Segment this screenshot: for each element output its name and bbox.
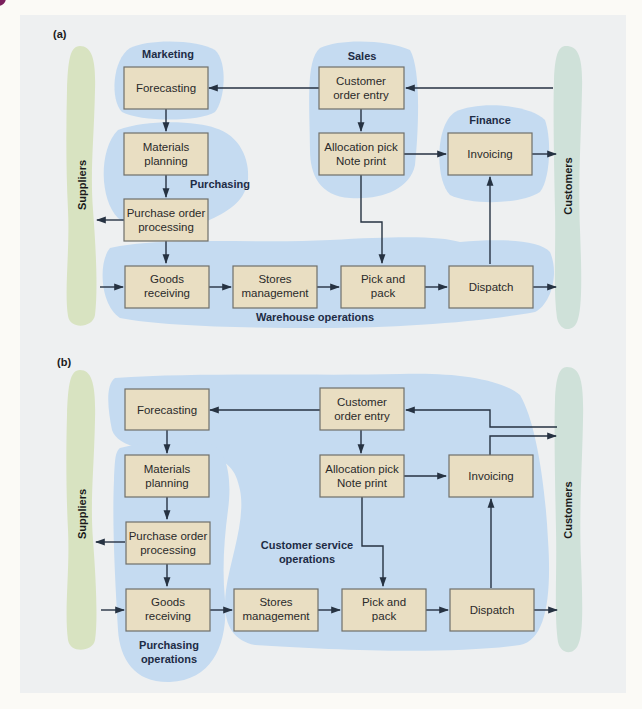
svg-text:Materials: Materials xyxy=(144,463,191,475)
svg-text:management: management xyxy=(242,610,310,622)
box-materials-planning-b: Materials planning xyxy=(125,455,209,497)
svg-text:Materials: Materials xyxy=(143,141,190,153)
svg-text:Pick and: Pick and xyxy=(362,596,406,608)
box-dispatch: Dispatch xyxy=(449,266,533,308)
suppliers-label-b: Suppliers xyxy=(76,489,88,539)
box-forecasting-b: Forecasting xyxy=(125,389,209,430)
box-goods-receiving: Goods receiving xyxy=(125,266,209,308)
box-materials-planning: Materials planning xyxy=(124,133,208,175)
svg-text:order entry: order entry xyxy=(334,410,390,422)
diagram-a: (a) Suppliers Customers Marketing Sales … xyxy=(53,28,582,329)
panel-label-a: (a) xyxy=(53,28,67,40)
svg-text:Invoicing: Invoicing xyxy=(468,470,513,482)
svg-text:Pick and: Pick and xyxy=(361,273,405,285)
box-customer-order-entry-b: Customer order entry xyxy=(320,388,404,430)
svg-text:Goods: Goods xyxy=(151,596,185,608)
customer-service-label-line1: Customer service xyxy=(261,539,353,551)
svg-text:processing: processing xyxy=(140,544,196,556)
box-pick-and-pack: Pick and pack xyxy=(341,266,425,308)
svg-text:Stores: Stores xyxy=(258,273,291,285)
panel-label-b: (b) xyxy=(57,356,71,368)
box-stores-management: Stores management xyxy=(233,266,317,308)
finance-label: Finance xyxy=(469,114,511,126)
sales-label: Sales xyxy=(348,50,377,62)
customers-label-b: Customers xyxy=(562,481,574,538)
svg-text:Stores: Stores xyxy=(259,596,292,608)
svg-text:Goods: Goods xyxy=(150,273,184,285)
purchasing-operations-label-line2: operations xyxy=(141,653,197,665)
svg-text:Allocation pick: Allocation pick xyxy=(325,463,399,475)
svg-text:Invoicing: Invoicing xyxy=(467,148,512,160)
svg-text:Allocation pick: Allocation pick xyxy=(324,141,398,153)
svg-text:Purchase order: Purchase order xyxy=(127,207,206,219)
svg-text:planning: planning xyxy=(144,155,187,167)
box-forecasting: Forecasting xyxy=(124,67,208,109)
suppliers-label-a: Suppliers xyxy=(76,160,88,210)
svg-text:Purchase order: Purchase order xyxy=(129,530,208,542)
svg-text:order entry: order entry xyxy=(333,89,389,101)
box-goods-receiving-b: Goods receiving xyxy=(126,589,210,631)
box-allocation-pick-b: Allocation pick Note print xyxy=(320,455,404,497)
box-customer-order-entry: Customer order entry xyxy=(319,67,404,109)
box-stores-management-b: Stores management xyxy=(234,589,318,631)
svg-text:receiving: receiving xyxy=(145,610,191,622)
purchasing-operations-label-line1: Purchasing xyxy=(139,639,199,651)
svg-text:Forecasting: Forecasting xyxy=(136,82,196,94)
warehouse-label: Warehouse operations xyxy=(256,311,374,323)
svg-text:pack: pack xyxy=(372,610,397,622)
svg-text:Dispatch: Dispatch xyxy=(470,604,515,616)
diagram-b: (b) Suppliers Customers Customer service… xyxy=(57,356,583,682)
svg-text:Customer: Customer xyxy=(337,396,387,408)
svg-text:Dispatch: Dispatch xyxy=(469,281,514,293)
svg-text:Note print: Note print xyxy=(336,155,387,167)
box-purchase-order: Purchase order processing xyxy=(124,199,208,241)
customer-service-label-line2: operations xyxy=(279,553,335,565)
svg-text:processing: processing xyxy=(138,221,194,233)
svg-text:pack: pack xyxy=(371,287,396,299)
box-purchase-order-b: Purchase order processing xyxy=(126,522,210,564)
svg-text:Note print: Note print xyxy=(337,477,388,489)
svg-text:Forecasting: Forecasting xyxy=(137,404,197,416)
box-allocation-pick: Allocation pick Note print xyxy=(319,133,404,175)
box-invoicing-b: Invoicing xyxy=(449,455,533,497)
svg-text:planning: planning xyxy=(145,477,188,489)
box-invoicing: Invoicing xyxy=(448,133,532,175)
customers-label-a: Customers xyxy=(562,157,574,214)
svg-text:Customer: Customer xyxy=(336,75,386,87)
box-pick-and-pack-b: Pick and pack xyxy=(342,589,426,631)
marketing-label: Marketing xyxy=(142,48,194,60)
box-dispatch-b: Dispatch xyxy=(450,589,534,631)
purchasing-label: Purchasing xyxy=(190,178,250,190)
svg-text:management: management xyxy=(241,287,309,299)
svg-text:receiving: receiving xyxy=(144,287,190,299)
process-diagrams: (a) Suppliers Customers Marketing Sales … xyxy=(0,0,642,709)
